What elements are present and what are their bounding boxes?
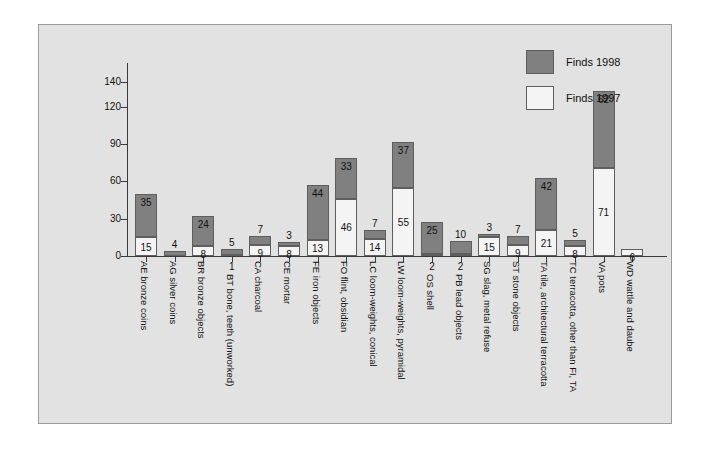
chart-legend: Finds 1998Finds 1997 [526,50,620,110]
y-axis-tick-label: 30 [87,213,121,224]
bar-value-label-1998: 5 [221,237,243,248]
bar-group[interactable]: 824 [192,216,214,256]
bar-segment-1998[interactable] [221,249,243,255]
bar-group[interactable]: 85 [564,240,586,256]
x-axis-category-label: LW loom-weights, pyramidal [396,261,407,380]
x-axis-category-label: OS shell [425,274,436,310]
bar-segment-1997[interactable] [278,246,300,256]
x-axis-category-label: PB lead objects [454,274,465,340]
bar-segment-1997[interactable] [478,237,500,256]
legend-swatch-icon [526,86,554,110]
y-axis-tick [121,181,128,182]
x-axis-category-label: CE mortar [282,261,293,304]
y-axis-tick [121,82,128,83]
bar-segment-1997[interactable] [335,199,357,256]
bar-group[interactable]: 25 [421,222,443,256]
bar-segment-1997[interactable] [564,246,586,256]
bar-segment-1997[interactable] [621,249,643,256]
bar-value-label-below-axis: 2 [450,261,472,272]
bar-group[interactable]: 4633 [335,158,357,256]
legend-item: Finds 1997 [526,86,620,110]
bar-segment-1997[interactable] [392,188,414,256]
x-axis-category-label: ST stone objects [511,261,522,332]
y-axis-tick-label: 0 [87,250,121,261]
bar-group[interactable]: 153 [478,234,500,256]
bar-segment-1998[interactable] [249,236,271,245]
x-axis-category-label: BT bone, teeth (unworked) [225,274,236,386]
y-axis-line [127,63,128,257]
bar-segment-1997[interactable] [421,254,443,256]
bar-segment-1998[interactable] [335,158,357,199]
bar-segment-1997[interactable] [364,239,386,256]
x-axis-category-label: CA charcoal [253,261,264,312]
y-axis-tick [121,256,128,257]
x-axis-category-label: SG slag, metal refuse [482,261,493,352]
bar-segment-1998[interactable] [135,194,157,238]
bar-group[interactable]: 5537 [392,142,414,256]
bar-group[interactable]: 83 [278,242,300,256]
y-axis-tick-label: 90 [87,138,121,149]
bar-value-label-1998: 7 [364,218,386,229]
bar-group[interactable]: 97 [249,236,271,256]
legend-item: Finds 1998 [526,50,620,74]
bar-group[interactable]: 7162 [593,91,615,256]
bar-segment-1998[interactable] [307,185,329,240]
bar-segment-1997[interactable] [535,230,557,256]
legend-label: Finds 1998 [566,56,620,68]
y-axis-tick [121,144,128,145]
bar-segment-1998[interactable] [507,236,529,245]
x-axis-category-label: TC terracotta, other than FI, TA [568,261,579,392]
y-axis-tick-label: 140 [87,76,121,87]
y-axis-tick [121,107,128,108]
bar-group[interactable]: 2142 [535,178,557,256]
bar-segment-1997[interactable] [135,237,157,256]
x-axis-category-label: WD wattle and daube [625,261,636,352]
bar-value-label-1998: 3 [278,230,300,241]
bar-segment-1998[interactable] [564,240,586,246]
bar-group[interactable]: 97 [507,236,529,256]
bar-segment-1997[interactable] [593,168,615,256]
bar-segment-1998[interactable] [392,142,414,188]
x-axis-category-label: BR bronze objects [196,261,207,339]
bar-group[interactable]: 1535 [135,194,157,256]
x-axis-category-label: AG silver coins [168,261,179,324]
bar-value-label-1998: 10 [450,229,472,240]
bar-group[interactable]: 6 [621,249,643,256]
x-axis-category-label: FO flint, obsidian [339,261,350,332]
y-axis-tick-label: 60 [87,175,121,186]
legend-swatch-icon [526,50,554,74]
bar-value-label-1998: 7 [507,224,529,235]
bar-group[interactable]: 1344 [307,185,329,256]
bar-segment-1998[interactable] [450,241,472,253]
bar-segment-1998[interactable] [192,216,214,246]
bar-group[interactable]: 147 [364,230,386,256]
bar-segment-1997[interactable] [307,240,329,256]
y-axis-tick [121,219,128,220]
legend-label: Finds 1997 [566,92,620,104]
bar-segment-1998[interactable] [278,242,300,246]
bar-value-label-1998: 4 [164,239,186,250]
bar-group[interactable]: 10 [450,241,472,256]
bar-segment-1998[interactable] [478,234,500,238]
bar-group[interactable]: 4 [164,251,186,256]
y-axis-tick-label: 120 [87,101,121,112]
bar-value-label-1998: 7 [249,224,271,235]
x-axis-category-label: FE iron objects [311,261,322,324]
x-axis-category-label: VA pots [597,261,608,293]
bar-segment-1997[interactable] [192,246,214,256]
bar-segment-1998[interactable] [535,178,557,230]
bar-value-label-below-axis: 1 [221,261,243,272]
bar-value-label-1998: 3 [478,222,500,233]
x-axis-category-label: LC loom-weights, conical [368,261,379,367]
bar-segment-1998[interactable] [364,230,386,239]
bar-segment-1997[interactable] [249,245,271,256]
x-axis-category-label: TA tile, architectural terracotta [539,261,550,387]
chart-figure: 03060901201401535AE bronze coins4AG silv… [38,24,672,424]
bar-value-label-1998: 5 [564,228,586,239]
bar-value-label-below-axis: 2 [421,261,443,272]
bar-segment-1998[interactable] [421,222,443,253]
bar-segment-1997[interactable] [507,245,529,256]
bar-segment-1998[interactable] [164,251,186,256]
bar-segment-1997[interactable] [450,254,472,256]
bar-group[interactable]: 5 [221,249,243,256]
